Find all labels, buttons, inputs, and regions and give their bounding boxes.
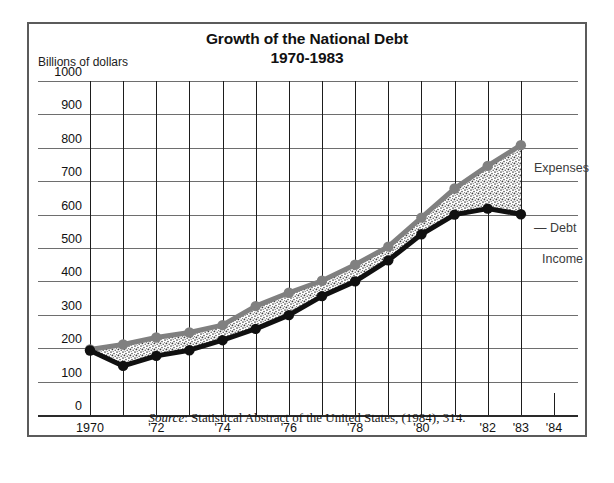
legend-label-debt: — Debt [534,221,576,235]
legend-label-income: Income [542,252,583,266]
data-point-marker [184,345,194,355]
data-point-marker [317,291,327,301]
data-point-marker [516,209,526,219]
expenses-line [90,145,521,349]
data-point-marker [416,212,426,222]
data-point-marker [251,324,261,334]
data-point-marker [217,335,227,345]
data-point-marker [516,140,526,150]
y-axis-tick-label: 1000 [38,65,89,79]
source-note: Source: Statistical Abstract of the Unit… [29,410,585,426]
data-point-marker [118,339,128,349]
chart-card: Growth of the National Debt 1970-1983 Bi… [27,22,587,437]
data-point-marker [449,209,459,219]
data-point-marker [151,332,161,342]
data-point-marker [284,310,294,320]
data-point-marker [449,183,459,193]
plot-area: 01002003004005006007008009001000 1970'72… [38,81,578,415]
data-point-marker [350,276,360,286]
data-point-marker [284,288,294,298]
data-point-marker [483,161,493,171]
legend-label-expenses: Expenses [534,161,589,175]
data-point-marker [151,351,161,361]
data-point-marker [317,276,327,286]
data-point-marker [383,241,393,251]
chart-series-layer [38,81,578,415]
data-point-marker [118,361,128,371]
data-point-marker [383,255,393,265]
chart-title-line1: Growth of the National Debt [206,30,408,47]
data-point-marker [483,203,493,213]
source-text: : Statistical Abstract of the United Sta… [184,410,465,425]
data-point-marker [251,301,261,311]
source-label: Source [149,410,185,425]
data-point-marker [217,320,227,330]
data-point-marker [184,327,194,337]
expenses-data-points [85,140,526,355]
data-point-marker [85,345,95,355]
data-point-marker [350,260,360,270]
data-point-marker [416,229,426,239]
